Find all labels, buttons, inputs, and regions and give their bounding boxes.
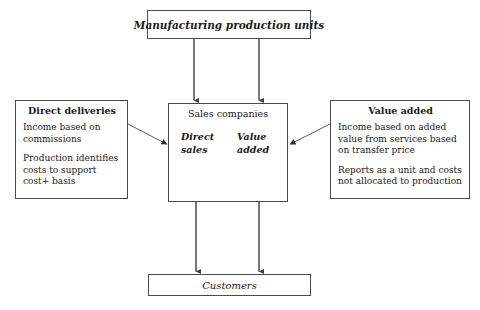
node-sales-companies-title: Sales companies: [169, 108, 287, 119]
node-customers-label: Customers: [202, 280, 257, 291]
node-value-added-title: Value added: [338, 105, 463, 116]
node-direct-deliveries-paragraph-1: Income based on commissions: [23, 122, 121, 145]
diagram-canvas: Manufacturing production units Direct de…: [0, 0, 480, 310]
node-sales-companies-column-value-added: Value added: [237, 130, 283, 156]
node-direct-deliveries[interactable]: Direct deliveries Income based on commis…: [15, 100, 128, 199]
node-manufacturing-production-units[interactable]: Manufacturing production units: [147, 10, 311, 39]
node-customers[interactable]: Customers: [148, 274, 311, 296]
node-value-added-paragraph-2: Reports as a unit and costs not allocate…: [338, 165, 463, 188]
node-value-added[interactable]: Value added Income based on added value …: [330, 100, 470, 199]
arrow-direct-deliveries-to-sales: [128, 124, 167, 144]
node-direct-deliveries-title: Direct deliveries: [23, 105, 121, 116]
node-value-added-paragraph-1: Income based on added value from service…: [338, 122, 463, 157]
node-direct-deliveries-paragraph-2: Production identifies costs to support c…: [23, 153, 121, 188]
arrow-value-added-to-sales: [291, 124, 331, 144]
node-manufacturing-label: Manufacturing production units: [134, 19, 324, 31]
node-sales-companies[interactable]: Sales companies Direct sales Value added: [168, 103, 288, 202]
node-sales-companies-column-direct-sales: Direct sales: [181, 130, 227, 156]
